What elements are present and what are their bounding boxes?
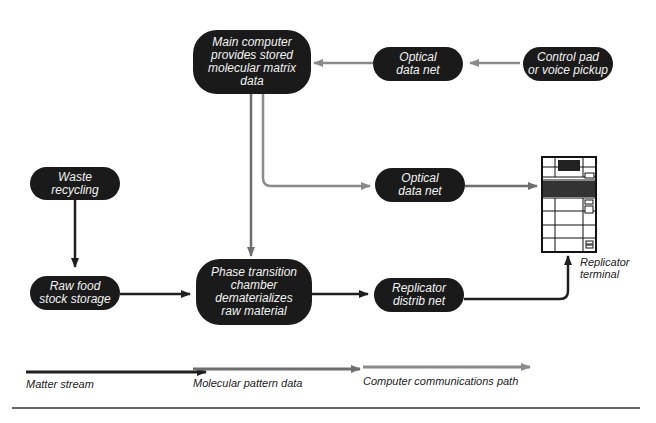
- replicator-terminal-label: Replicator terminal: [580, 256, 630, 280]
- node-text: recycling: [51, 184, 98, 197]
- arrow-distrib-to-terminal: [464, 256, 568, 299]
- optical-data-net-top-node: Optical data net: [373, 47, 463, 81]
- legend-label-matter: Matter stream: [26, 378, 94, 390]
- optical-data-net-mid-node: Optical data net: [375, 168, 465, 202]
- replicator-terminal-icon: [541, 156, 597, 253]
- label-line: Replicator: [580, 256, 630, 268]
- raw-food-storage-node: Raw food stock storage: [30, 276, 120, 310]
- replicator-distrib-net-node: Replicator distrib net: [374, 278, 464, 312]
- control-pad-node: Control pad or voice pickup: [523, 47, 613, 81]
- main-computer-node: Main computer provides stored molecular …: [193, 30, 311, 94]
- waste-recycling-node: Waste recycling: [30, 167, 120, 200]
- label-line: terminal: [580, 268, 630, 280]
- node-text: data net: [396, 64, 439, 77]
- legend-label-molecular: Molecular pattern data: [193, 377, 302, 389]
- node-text: stock storage: [39, 293, 110, 306]
- node-text: distrib net: [393, 295, 445, 308]
- legend-label-computer: Computer communications path: [363, 375, 518, 387]
- node-text: data net: [398, 185, 441, 198]
- node-text: raw material: [221, 305, 286, 318]
- node-text: data: [240, 75, 263, 88]
- node-text: Waste: [58, 171, 92, 184]
- arrow-main-to-optical-mid: [263, 94, 370, 186]
- phase-transition-chamber-node: Phase transition chamber dematerializes …: [196, 259, 312, 325]
- node-text: or voice pickup: [528, 64, 608, 77]
